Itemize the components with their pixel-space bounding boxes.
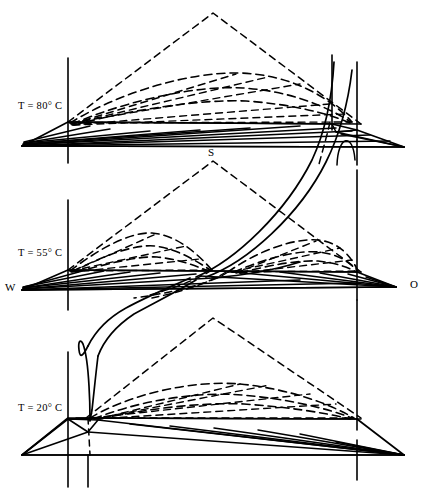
temperature-label-55c: T = 55° C <box>18 247 62 258</box>
phase-diagram-figure: T = 80° C T = 55° C T = 20° C S W O <box>0 0 427 499</box>
isotherm-20-three-phase-triangle <box>22 419 98 455</box>
phase-diagram-canvas <box>0 0 427 499</box>
isotherm-80-tielines-solid <box>22 126 404 147</box>
isotherm-20-tielines-dashed <box>90 384 354 419</box>
isotherm-20-binodal-solid <box>79 341 98 421</box>
temperature-label-55c-text: T = 55° C <box>18 247 62 258</box>
isotherm-20-front-outline <box>22 418 404 455</box>
isotherm-20-panel <box>22 318 404 455</box>
vertex-label-solvent: S <box>208 146 214 158</box>
temperature-label-20c-text: T = 20° C <box>18 402 62 413</box>
vertex-label-oil: O <box>410 278 418 290</box>
isotherm-20-conode-dashed <box>88 418 90 455</box>
isotherm-80-arch-loop <box>337 141 355 165</box>
isotherm-80-back-triangle <box>68 13 361 124</box>
isotherm-80-binodal-dashed <box>70 73 352 125</box>
isotherm-80-tielines-dashed <box>70 74 352 125</box>
vertex-label-oil-text: O <box>410 278 418 290</box>
vertex-label-water: W <box>5 281 15 293</box>
isotherm-55-binodal-solid-rising <box>196 62 352 278</box>
temperature-label-80c-text: T = 80° C <box>18 100 62 111</box>
isotherm-20-tielines-solid <box>22 420 404 455</box>
temperature-label-20c: T = 20° C <box>18 402 62 413</box>
isotherm-80-panel <box>22 13 404 168</box>
vertex-label-water-text: W <box>5 281 15 293</box>
vertex-label-solvent-text: S <box>208 146 214 158</box>
temperature-label-80c: T = 80° C <box>18 100 62 111</box>
isotherm-55-panel <box>22 62 396 356</box>
